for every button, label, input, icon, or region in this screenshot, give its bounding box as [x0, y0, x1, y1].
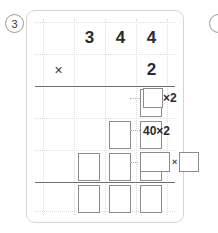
digit-tens: 4 — [105, 23, 136, 53]
problem-card: 3 4 4 × 2 — [26, 10, 184, 223]
worksheet-grid: 3 4 4 × 2 — [35, 19, 175, 215]
annotation-tens: 40×2 — [143, 124, 170, 138]
answer-box-hundreds-2[interactable] — [109, 153, 131, 181]
answer-box-total-3[interactable] — [140, 185, 162, 213]
leader-line-tens — [130, 130, 140, 131]
annotation-tens-label: 40×2 — [143, 124, 170, 138]
multiply-operator-icon: × — [43, 55, 74, 85]
grid-hline-4 — [35, 118, 175, 119]
multiplication-rule-top — [35, 86, 175, 87]
annotation-ones-box[interactable] — [143, 88, 163, 108]
annotation-ones-times: ×2 — [163, 91, 177, 105]
digit-ones: 4 — [136, 23, 167, 53]
grid-hline-5 — [35, 150, 175, 151]
answer-box-total-2[interactable] — [109, 185, 131, 213]
grid-vline-1 — [43, 19, 44, 215]
digit-hundreds: 3 — [74, 23, 105, 53]
annotation-hundreds-box-left[interactable] — [140, 152, 170, 172]
next-problem-number-partial — [209, 14, 218, 33]
leader-line-ones — [130, 98, 140, 99]
answer-box-tens-1[interactable] — [109, 121, 131, 149]
annotation-hundreds: × — [140, 152, 199, 172]
leader-line-hundreds — [130, 162, 138, 163]
annotation-hundreds-box-right[interactable] — [179, 152, 199, 172]
answer-box-hundreds-1[interactable] — [78, 153, 100, 181]
digit-multiplier: 2 — [136, 55, 167, 85]
grid-vline-5 — [167, 19, 168, 215]
annotation-ones: ×2 — [143, 88, 177, 108]
answer-box-total-1[interactable] — [78, 185, 100, 213]
multiplication-rule-bottom — [35, 182, 175, 183]
annotation-hundreds-times-icon: × — [172, 157, 177, 167]
problem-number: 3 — [5, 14, 24, 33]
